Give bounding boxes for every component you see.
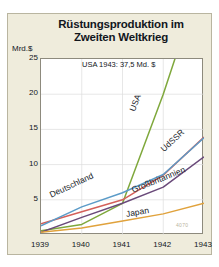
y-tick-5: 5 bbox=[12, 194, 38, 203]
y-tick-25: 25 bbox=[12, 53, 38, 62]
plot-svg bbox=[41, 59, 204, 235]
x-tick-1940: 1940 bbox=[61, 240, 101, 249]
y-tick-20: 20 bbox=[12, 88, 38, 97]
x-tick-1941: 1941 bbox=[102, 240, 142, 249]
x-tick-1942: 1942 bbox=[142, 240, 182, 249]
chart-figure: Rüstungsproduktion im Zweiten Weltkrieg … bbox=[7, 13, 212, 255]
y-tick-10: 10 bbox=[12, 159, 38, 168]
credit-code: 4070 bbox=[176, 222, 188, 228]
usa-annotation: USA 1943: 37,5 Md. $ bbox=[82, 60, 155, 69]
x-tick-1943: 1943 bbox=[183, 240, 219, 249]
y-tick-15: 15 bbox=[12, 123, 38, 132]
plot-area bbox=[40, 58, 203, 234]
chart-title-line-1: Rüstungsproduktion im bbox=[58, 18, 183, 30]
y-axis-tick-labels: 252015105 bbox=[8, 14, 38, 267]
chart-title-line-2: Zweiten Weltkrieg bbox=[74, 31, 168, 43]
x-axis-tick-labels: 19391940194119421943 bbox=[40, 240, 203, 254]
chart-title: Rüstungsproduktion im Zweiten Weltkrieg bbox=[32, 18, 210, 43]
x-tick-1939: 1939 bbox=[20, 240, 60, 249]
